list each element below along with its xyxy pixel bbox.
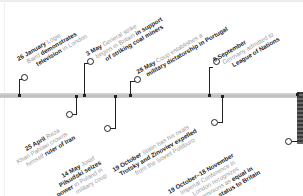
connector-line bbox=[76, 97, 77, 114]
connector-line bbox=[130, 81, 131, 95]
event-marker-icon bbox=[104, 125, 111, 132]
timeline-dot bbox=[129, 94, 132, 97]
connector-line bbox=[115, 97, 116, 128]
timeline-graphic: 26 January Logie Baird demonstrates tele… bbox=[0, 0, 303, 196]
connector-line bbox=[222, 97, 223, 122]
page-edge-marker bbox=[297, 92, 303, 144]
timeline-dot bbox=[296, 93, 299, 96]
event-label-25-april: 25 April Reza Khan Pahlavi crowns himsel… bbox=[12, 121, 77, 171]
top-border bbox=[0, 0, 303, 2]
left-border bbox=[4, 0, 5, 196]
event-marker-icon bbox=[21, 74, 28, 81]
event-marker-icon bbox=[66, 111, 73, 118]
event-label-26-january: 26 January Logie Baird demonstrates tele… bbox=[16, 20, 88, 74]
timeline-dot bbox=[208, 94, 211, 97]
timeline-bar bbox=[0, 93, 300, 98]
connector-line bbox=[218, 122, 223, 123]
event-label-14-may: 14 May Josef Pilsudski seizes power in P… bbox=[48, 153, 109, 196]
connector-line bbox=[84, 63, 85, 95]
timeline-dot bbox=[83, 94, 86, 97]
event-text-bold: Trotsky and Zinoviev expelled bbox=[118, 127, 198, 177]
connector-line bbox=[209, 67, 210, 95]
event-marker-icon bbox=[285, 138, 292, 145]
connector-line bbox=[209, 67, 213, 68]
connector-line bbox=[19, 79, 20, 95]
event-label-19-october-18-november: 19 October–18 November Imperial Conferen… bbox=[167, 144, 262, 196]
event-marker-icon bbox=[211, 119, 218, 126]
